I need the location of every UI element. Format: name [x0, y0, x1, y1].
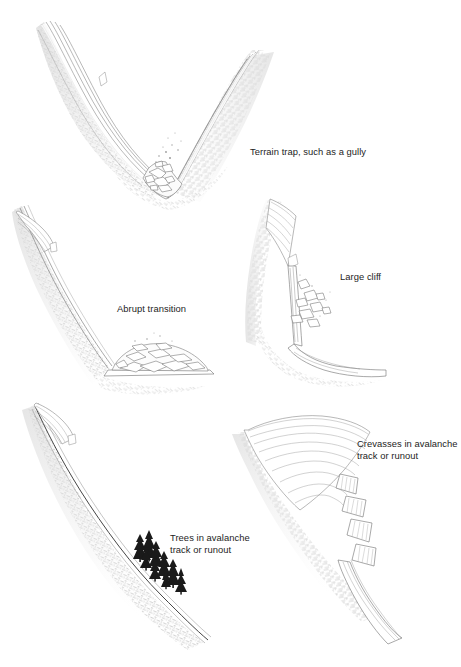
gully-left-crest-notch [99, 72, 107, 86]
abrupt-debris-specks [134, 333, 172, 342]
caption-line: Crevasses in avalanche [357, 438, 458, 449]
crevasse-block [336, 474, 358, 494]
caption-line: track or runout [170, 544, 231, 555]
abrupt-ground-texture [96, 374, 205, 395]
trees-slope-surface [32, 403, 211, 643]
illustration-figure: Terrain trap, such as a gully Abrupt tra… [0, 0, 461, 667]
crevasse-block [347, 519, 372, 542]
cliff-base-texture [256, 330, 382, 387]
panel-trees [22, 403, 211, 652]
crevasse-block [352, 544, 376, 566]
abrupt-bench-notch [50, 242, 57, 252]
caption-crevasses-in-avalanche-track: Crevasses in avalanchetrack or runout [357, 438, 458, 461]
abrupt-slope-shade [12, 206, 110, 384]
caption-line: track or runout [357, 450, 418, 461]
gully-right-wall-shade [172, 52, 274, 202]
caption-line: Trees in avalanche [170, 532, 250, 543]
trees-slope-body [28, 404, 204, 650]
terrain-illustration-svg [0, 0, 461, 667]
crevasse-block [342, 496, 366, 517]
abrupt-debris-pile [112, 343, 208, 372]
panel-abrupt-transition [12, 205, 214, 395]
panel-large-cliff [245, 199, 386, 387]
caption-large-cliff: Large cliff [340, 271, 381, 283]
caption-abrupt-transition: Abrupt transition [117, 303, 186, 315]
gully-left-crest-cap [41, 23, 149, 183]
caption-trees-in-avalanche-track: Trees in avalanchetrack or runout [170, 532, 250, 555]
cliff-base-bench [288, 344, 386, 377]
trees-bench-notch [68, 434, 76, 445]
caption-terrain-trap-gully: Terrain trap, such as a gully [250, 146, 366, 158]
gully-debris-specks [155, 133, 181, 163]
panel-gully [36, 21, 274, 210]
crevasse-blocks [336, 474, 376, 566]
